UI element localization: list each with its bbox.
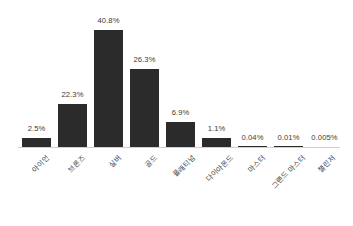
category-label-2: 실버 <box>106 152 123 169</box>
category-label-7: 그랜드 마스터 <box>269 152 307 190</box>
value-label-7: 0.01% <box>271 133 306 142</box>
value-label-2: 40.8% <box>92 16 125 25</box>
bar-4 <box>166 122 195 148</box>
bar-3 <box>130 69 159 148</box>
category-label-0: 아이언 <box>29 152 51 174</box>
plot-area <box>0 0 353 148</box>
value-label-5: 1.1% <box>202 124 231 133</box>
category-label-3: 골드 <box>142 152 159 169</box>
category-label-6: 마스터 <box>245 152 267 174</box>
x-axis-line <box>18 147 340 148</box>
value-label-6: 0.04% <box>235 133 270 142</box>
value-label-1: 22.3% <box>56 90 89 99</box>
value-label-3: 26.3% <box>128 55 161 64</box>
category-label-8: 챌린저 <box>315 152 337 174</box>
bar-2 <box>94 30 123 148</box>
value-label-8: 0.005% <box>305 133 344 142</box>
value-label-0: 2.5% <box>22 124 51 133</box>
bar-chart: 2.5% 22.3% 40.8% 26.3% 6.9% 1.1% 0.04% 0… <box>0 0 353 226</box>
value-label-4: 6.9% <box>166 108 195 117</box>
category-label-1: 브론즈 <box>65 152 87 174</box>
category-label-5: 다이아몬드 <box>203 152 235 184</box>
category-label-4: 플래티넘 <box>170 152 197 179</box>
bar-1 <box>58 104 87 148</box>
